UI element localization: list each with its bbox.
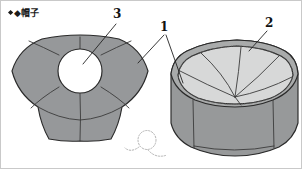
ghost-tail-right bbox=[148, 150, 167, 156]
center-opening bbox=[58, 49, 102, 93]
ghost-tail-left bbox=[125, 147, 139, 150]
ghost-loop-detail bbox=[125, 131, 167, 157]
figure-canvas: ◆帽子 bbox=[1, 1, 302, 169]
diamond-marker-icon bbox=[8, 10, 13, 15]
flat-top-view bbox=[12, 35, 148, 141]
reference-label-2: 2 bbox=[265, 16, 273, 30]
reference-label-3: 3 bbox=[113, 7, 121, 21]
ghost-loop bbox=[138, 131, 156, 150]
perspective-view bbox=[171, 40, 298, 156]
reference-label-1: 1 bbox=[160, 20, 168, 34]
caption-group: ◆帽子 bbox=[8, 7, 39, 18]
reference-numbers: 3 1 2 bbox=[113, 7, 273, 34]
patent-figure-hat: ◆帽子 bbox=[0, 0, 302, 169]
leader-1-left bbox=[138, 35, 164, 63]
caption-label: ◆帽子 bbox=[14, 7, 39, 18]
